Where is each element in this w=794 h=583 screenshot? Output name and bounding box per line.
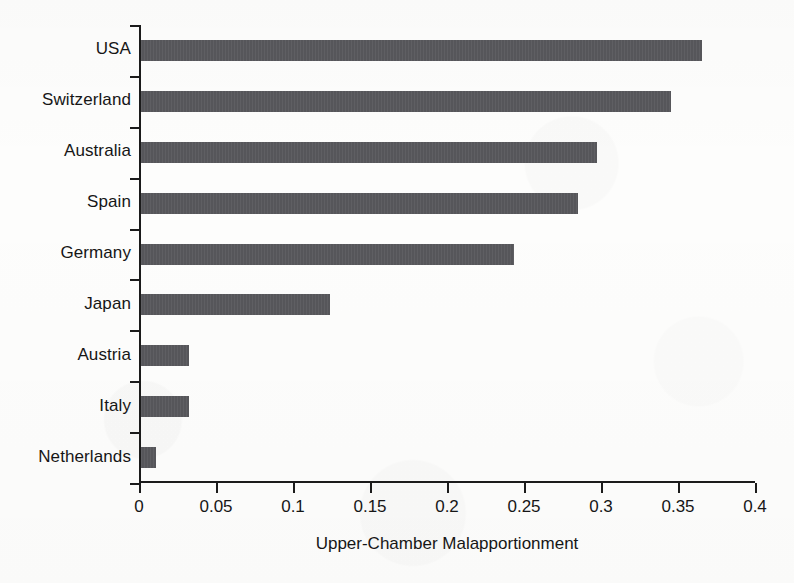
x-axis-title: Upper-Chamber Malapportionment	[139, 534, 755, 554]
x-axis-tick-label: 0.35	[661, 497, 694, 517]
x-axis-tick-label: 0.3	[589, 497, 613, 517]
y-axis-label-germany: Germany	[0, 243, 131, 263]
x-axis-tick	[216, 483, 218, 493]
y-axis-label-spain: Spain	[0, 192, 131, 212]
y-axis-tick	[130, 279, 139, 281]
y-axis-label-netherlands: Netherlands	[0, 447, 131, 467]
y-axis-label-italy: Italy	[0, 396, 131, 416]
y-axis-tick	[130, 127, 139, 129]
y-axis-label-usa: USA	[0, 39, 131, 59]
bar-spain	[141, 193, 578, 214]
y-axis-tick	[130, 381, 139, 383]
y-axis-label-switzerland: Switzerland	[0, 90, 131, 110]
plot-area	[139, 25, 755, 483]
y-axis-tick	[130, 483, 139, 485]
x-axis-tick-label: 0.1	[281, 497, 305, 517]
y-axis-tick	[130, 178, 139, 180]
x-axis-tick	[447, 483, 449, 493]
chart-page: USASwitzerlandAustraliaSpainGermanyJapan…	[0, 0, 794, 583]
y-axis-tick	[130, 25, 139, 27]
x-axis-tick	[678, 483, 680, 493]
x-axis-tick-label: 0.4	[743, 497, 767, 517]
y-axis-category-labels: USASwitzerlandAustraliaSpainGermanyJapan…	[0, 25, 131, 483]
x-axis-tick-label: 0	[134, 497, 143, 517]
x-axis-tick	[370, 483, 372, 493]
bar-japan	[141, 294, 330, 315]
x-axis-tick-labels: 00.050.10.150.20.250.30.350.4	[139, 497, 755, 523]
bar-australia	[141, 142, 597, 163]
y-axis-tick	[130, 330, 139, 332]
y-axis-label-austria: Austria	[0, 345, 131, 365]
x-axis-tick	[293, 483, 295, 493]
y-axis-tick	[130, 432, 139, 434]
x-axis-tick	[755, 483, 757, 493]
x-axis-tick-label: 0.2	[435, 497, 459, 517]
x-axis-tick	[601, 483, 603, 493]
bar-usa	[141, 40, 702, 61]
y-axis-tick	[130, 76, 139, 78]
bar-switzerland	[141, 91, 671, 112]
bar-austria	[141, 345, 189, 366]
bar-netherlands	[141, 447, 156, 468]
bar-germany	[141, 244, 514, 265]
bar-italy	[141, 396, 189, 417]
x-axis-tick-label: 0.25	[507, 497, 540, 517]
x-axis-tick	[139, 483, 141, 493]
y-axis-label-australia: Australia	[0, 141, 131, 161]
x-axis-tick-label: 0.05	[199, 497, 232, 517]
x-axis-tick-label: 0.15	[353, 497, 386, 517]
y-axis-label-japan: Japan	[0, 294, 131, 314]
y-axis-tick	[130, 229, 139, 231]
x-axis-tick	[524, 483, 526, 493]
